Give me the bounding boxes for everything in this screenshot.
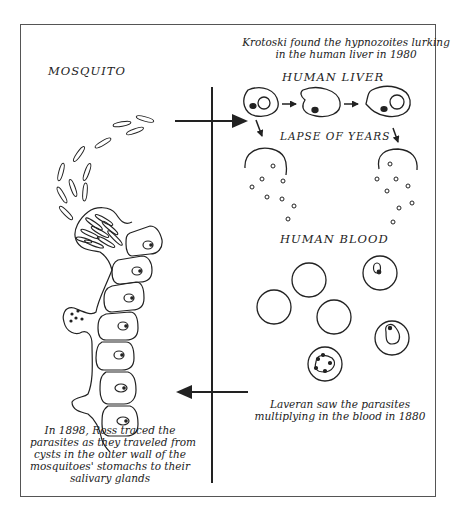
diagram-illustration [0,0,455,517]
red-blood-cell [308,347,342,381]
mosquito-stomach-wall [63,208,162,452]
arrow-down-icon [393,128,398,142]
red-blood-cell [317,300,351,334]
infected-cell-2 [386,325,400,344]
infected-cell-3-schizont [315,354,335,373]
merozoites-right [375,162,414,224]
arrow-down-icon [256,120,262,136]
red-blood-cell [257,290,291,324]
liver-cell-1 [244,88,278,117]
infected-cell-1 [374,263,381,274]
liver-cell-2 [301,88,340,117]
red-blood-cell [292,263,326,297]
red-blood-cell [375,321,409,355]
ruptured-cell-right [378,149,417,170]
ruptured-cell-left [245,148,287,175]
liver-cell-3 [366,86,410,116]
merozoites-left [250,164,296,221]
blood-cells [257,256,409,381]
sporozoites [56,115,155,221]
oocyst-sporozoites [76,213,124,249]
